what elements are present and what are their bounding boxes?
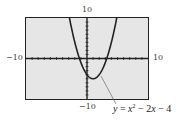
leader-line (101, 76, 116, 104)
equation-label: y = x2 − 2x − 4 (113, 103, 171, 114)
parabola-curve (67, 7, 118, 78)
